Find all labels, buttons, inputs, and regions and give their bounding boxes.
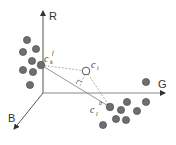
b-axis-label: B bbox=[8, 112, 15, 124]
g-axis-label: G bbox=[158, 78, 167, 90]
cluster-dot bbox=[19, 48, 26, 55]
background-center-label: c l b bbox=[90, 100, 102, 117]
background-cluster bbox=[99, 78, 149, 128]
cluster-dot bbox=[32, 45, 39, 52]
label-base: c bbox=[44, 53, 49, 64]
background-center-dot bbox=[106, 103, 114, 111]
label-sub: l bbox=[96, 111, 98, 117]
label-sup: b bbox=[99, 100, 102, 106]
cluster-dot bbox=[28, 57, 35, 64]
b-axis bbox=[14, 93, 43, 129]
cluster-dot bbox=[112, 115, 119, 122]
cluster-dot bbox=[122, 116, 129, 123]
rgb-color-space-diagram: R G B c k f c i c bbox=[0, 0, 176, 145]
cluster-dot bbox=[133, 107, 140, 114]
label-base: c bbox=[90, 104, 95, 115]
label-sub: k bbox=[50, 59, 53, 65]
foreground-cluster bbox=[19, 36, 44, 88]
label-base: c bbox=[91, 59, 96, 70]
query-point-label: c i bbox=[91, 59, 99, 71]
label-sub: i bbox=[97, 65, 99, 71]
cluster-dot bbox=[23, 36, 30, 43]
cluster-dot bbox=[142, 78, 149, 85]
dashed-line-ci-cl bbox=[86, 71, 110, 107]
cluster-dot bbox=[123, 98, 130, 105]
cluster-dot bbox=[29, 68, 36, 75]
cluster-dot bbox=[19, 66, 26, 73]
label-sup: f bbox=[52, 50, 55, 56]
cluster-dot bbox=[99, 121, 106, 128]
dashed-line-ck-ci bbox=[41, 65, 86, 71]
foreground-center-label: c k f bbox=[44, 50, 55, 65]
r-axis-label: R bbox=[49, 10, 57, 22]
cluster-dot bbox=[26, 81, 33, 88]
cluster-dot bbox=[117, 106, 124, 113]
right-angle-marker bbox=[76, 80, 82, 84]
cluster-dot bbox=[142, 98, 149, 105]
query-point bbox=[82, 67, 90, 75]
